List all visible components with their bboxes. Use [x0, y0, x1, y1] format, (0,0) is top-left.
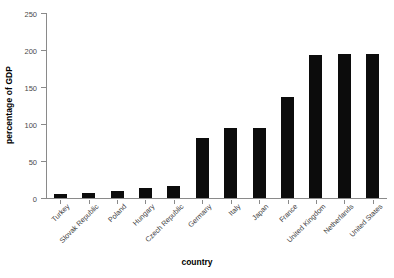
y-axis-tick-mark: 150 [41, 87, 46, 88]
plot-area: 050100150200250 [46, 13, 387, 198]
y-axis-tick-mark: 0 [41, 198, 46, 199]
x-axis-tick-mark [202, 200, 203, 204]
x-axis-title: country [0, 257, 394, 267]
bar [196, 138, 209, 198]
bar [111, 191, 124, 198]
bar [224, 128, 237, 198]
bar [54, 194, 67, 198]
y-axis-tick-label: 100 [24, 120, 37, 129]
x-axis-tick-mark [259, 200, 260, 204]
y-axis-tick-mark: 100 [41, 124, 46, 125]
bar [309, 55, 322, 198]
y-axis-title: percentage of GDP [0, 0, 18, 210]
bar [82, 193, 95, 198]
x-axis-tick-mark [145, 200, 146, 204]
x-axis-tick-mark [288, 200, 289, 204]
x-axis-tick-label: Germany [186, 202, 213, 229]
y-axis-title-text: percentage of GDP [4, 66, 14, 144]
bar [366, 54, 379, 198]
x-axis-tick-mark [60, 200, 61, 204]
bar [139, 188, 152, 198]
x-axis-tick-label: Hungary [131, 202, 157, 228]
y-axis-tick-label: 0 [33, 194, 37, 203]
y-axis-tick-label: 200 [24, 46, 37, 55]
x-axis-tick-label: France [277, 202, 299, 224]
bar [167, 186, 180, 198]
x-axis-tick-mark [316, 200, 317, 204]
x-axis-tick-mark [231, 200, 232, 204]
bar [253, 128, 266, 198]
watermark: ··· [352, 236, 356, 241]
x-axis-tick-mark [174, 200, 175, 204]
y-axis-tick-mark: 50 [41, 161, 46, 162]
bar [281, 97, 294, 198]
x-axis-tick-mark [373, 200, 374, 204]
y-axis-tick-mark: 250 [41, 13, 46, 14]
bar-chart-figure: percentage of GDP 050100150200250 Turkey… [0, 0, 394, 278]
y-axis-tick-label: 50 [29, 157, 37, 166]
x-axis-tick-label: Japan [250, 202, 270, 222]
y-axis-tick-label: 150 [24, 83, 37, 92]
x-axis-tick-mark [89, 200, 90, 204]
x-axis-tick-mark [344, 200, 345, 204]
y-axis-tick-label: 250 [24, 9, 37, 18]
x-axis-tick-label: Italy [226, 202, 242, 218]
x-axis-line [46, 198, 387, 199]
x-axis-tick-label: Poland [106, 202, 128, 224]
x-axis-tick-label: Turkey [50, 202, 72, 224]
x-axis-tick-labels: TurkeySlovak RepublicPolandHungaryCzech … [46, 200, 387, 260]
x-axis-tick-mark [117, 200, 118, 204]
bar [338, 54, 351, 198]
y-axis-tick-mark: 200 [41, 50, 46, 51]
